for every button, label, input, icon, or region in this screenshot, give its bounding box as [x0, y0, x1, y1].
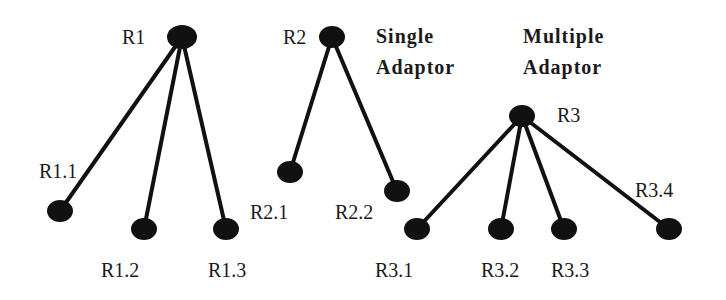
- label-r1.2: R1.2: [101, 259, 139, 281]
- title-single-line2: Adaptor: [376, 56, 455, 79]
- label-r2.2: R2.2: [335, 201, 373, 223]
- node-r3: [509, 105, 535, 127]
- label-r3.4: R3.4: [635, 179, 673, 201]
- node-r2.1: [277, 161, 303, 183]
- label-r3.1: R3.1: [375, 259, 413, 281]
- node-r3.2: [488, 218, 514, 240]
- node-r2: [319, 26, 345, 48]
- label-r3.3: R3.3: [551, 259, 589, 281]
- title-multiple-line1: Multiple: [523, 25, 604, 48]
- label-r1.1: R1.1: [39, 160, 77, 182]
- label-r1.3: R1.3: [208, 259, 246, 281]
- node-r3.3: [551, 218, 577, 240]
- node-r1.2: [131, 218, 157, 240]
- group-titles: Single Adaptor Multiple Adaptor: [376, 25, 604, 79]
- title-multiple-line2: Adaptor: [523, 56, 602, 79]
- node-r3.4: [656, 218, 682, 240]
- edge-r2-r2.1: [290, 37, 332, 172]
- node-r2.2: [384, 180, 410, 202]
- title-single-line1: Single: [376, 25, 434, 48]
- node-r3.1: [404, 218, 430, 240]
- label-r2: R2: [283, 26, 306, 48]
- label-r2.1: R2.1: [250, 201, 288, 223]
- edge-r1-r1.3: [182, 37, 226, 229]
- node-r1: [167, 25, 197, 49]
- label-r3.2: R3.2: [481, 259, 519, 281]
- node-r1.1: [47, 200, 73, 222]
- node-r1.3: [213, 218, 239, 240]
- edge-r3-r3.1: [417, 116, 522, 229]
- label-r1: R1: [122, 26, 145, 48]
- label-r3: R3: [557, 104, 580, 126]
- adaptor-diagram: R1 R1.1 R1.2 R1.3 R2 R2.1 R2.2 R3 R3.1 R…: [0, 0, 726, 300]
